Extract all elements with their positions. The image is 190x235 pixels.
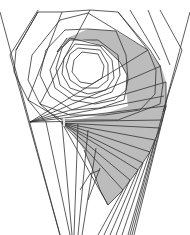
geometric-spiral-figure bbox=[0, 0, 190, 235]
focal-marker bbox=[63, 118, 65, 126]
spiral-drawing bbox=[0, 0, 190, 235]
